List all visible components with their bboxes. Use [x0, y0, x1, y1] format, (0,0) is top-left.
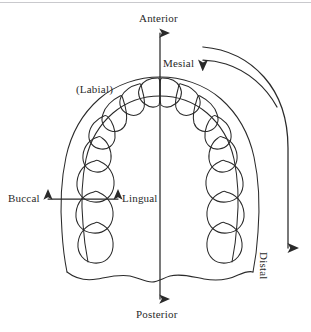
label-anterior: Anterior [139, 12, 178, 24]
tooth-right-central-incisor [160, 78, 181, 107]
mesial-direction-arc-arrow [203, 60, 277, 107]
teeth-right-quadrant [160, 78, 244, 263]
label-buccal: Buccal [8, 192, 40, 204]
tooth-right-canine [193, 96, 218, 132]
arch-illustration [0, 0, 311, 332]
distal-direction-arc-arrow [203, 47, 288, 248]
label-distal: Distal [258, 252, 270, 279]
teeth-left-quadrant [76, 78, 160, 263]
label-posterior: Posterior [136, 308, 178, 320]
label-mesial: Mesial [163, 57, 194, 69]
tooth-left-central-incisor [139, 78, 160, 107]
tooth-left-canine [102, 96, 127, 132]
label-lingual: Lingual [122, 192, 158, 204]
dental-arch-diagram: Anterior Posterior Mesial (Labial) Bucca… [0, 0, 311, 332]
label-labial: (Labial) [76, 83, 113, 95]
